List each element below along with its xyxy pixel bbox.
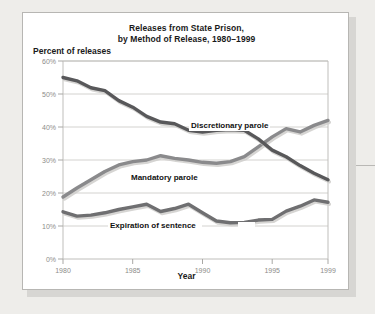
x-tick-marks — [63, 259, 328, 264]
page-root: Releases from State Prison, by Method of… — [0, 0, 375, 314]
series-label-mandatory-parole: Mandatory parole — [129, 171, 202, 183]
y-tick-label-60: 60% — [42, 58, 56, 65]
y-tick-label-40: 40% — [42, 124, 56, 131]
series-label-discretionary-parole: Discretionary parole — [189, 119, 270, 131]
y-tick-label-50: 50% — [42, 91, 56, 98]
y-tick-label-10: 10% — [42, 223, 56, 230]
x-axis-title: Year — [23, 271, 350, 281]
gridlines — [63, 61, 328, 226]
chart-card: Releases from State Prison, by Method of… — [22, 12, 349, 290]
y-tick-marks — [58, 61, 63, 259]
print-artifact-notch — [238, 222, 255, 227]
y-tick-label-20: 20% — [42, 190, 56, 197]
series-label-discretionary-parole-text: Discretionary parole — [191, 121, 269, 130]
y-tick-label-0: 0% — [46, 256, 56, 263]
line-chart-plot: 60% 50% 40% 30% 20% 10% 0% 1980 1985 199… — [23, 13, 350, 291]
series-label-expiration-of-sentence: Expiration of sentence — [108, 219, 202, 231]
series-label-mandatory-parole-text: Mandatory parole — [131, 173, 198, 182]
series-layer — [63, 78, 329, 225]
y-tick-label-30: 30% — [42, 157, 56, 164]
series-label-expiration-of-sentence-text: Expiration of sentence — [110, 221, 196, 230]
